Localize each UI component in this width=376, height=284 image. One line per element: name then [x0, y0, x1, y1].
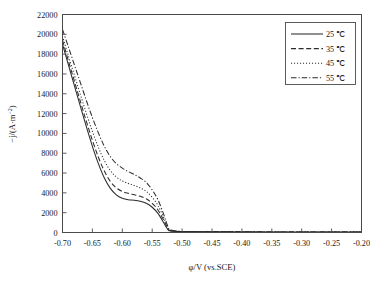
y-tick-label: 0: [53, 229, 57, 238]
x-tick-label: -0.65: [84, 239, 101, 248]
x-tick-label: -0.70: [54, 239, 71, 248]
y-tick-label: 8000: [41, 149, 57, 158]
y-tick-label: 10000: [37, 129, 57, 138]
legend-label-45C: 45 ℃: [326, 59, 345, 68]
polarization-curve-figure: -0.70-0.65-0.60-0.55-0.50-0.45-0.40-0.35…: [0, 0, 376, 284]
legend[interactable]: 25 ℃35 ℃45 ℃55 ℃: [286, 23, 356, 85]
x-axis-title: φ/V (vs.SCE): [189, 262, 236, 272]
x-tick-label: -0.30: [293, 239, 310, 248]
legend-label-25C: 25 ℃: [326, 30, 345, 39]
legend-label-55C: 55 ℃: [326, 74, 345, 83]
x-tick-label: -0.60: [114, 239, 131, 248]
y-tick-label: 12000: [37, 110, 57, 119]
legend-label-35C: 35 ℃: [326, 45, 345, 54]
y-tick-label: 4000: [41, 189, 57, 198]
y-tick-label: 22000: [37, 11, 57, 20]
y-tick-label: 2000: [41, 209, 57, 218]
y-tick-label: 18000: [37, 50, 57, 59]
y-tick-label: 20000: [37, 30, 57, 39]
x-tick-label: -0.35: [263, 239, 280, 248]
x-tick-label: -0.20: [353, 239, 370, 248]
chart-svg: -0.70-0.65-0.60-0.55-0.50-0.45-0.40-0.35…: [0, 0, 376, 284]
x-tick-label: -0.55: [144, 239, 161, 248]
x-tick-label: -0.45: [203, 239, 220, 248]
y-tick-label: 6000: [41, 169, 57, 178]
y-tick-label: 16000: [37, 70, 57, 79]
x-tick-label: -0.25: [323, 239, 340, 248]
x-tick-label: -0.50: [174, 239, 191, 248]
y-tick-label: 14000: [37, 90, 57, 99]
x-tick-label: -0.40: [233, 239, 250, 248]
